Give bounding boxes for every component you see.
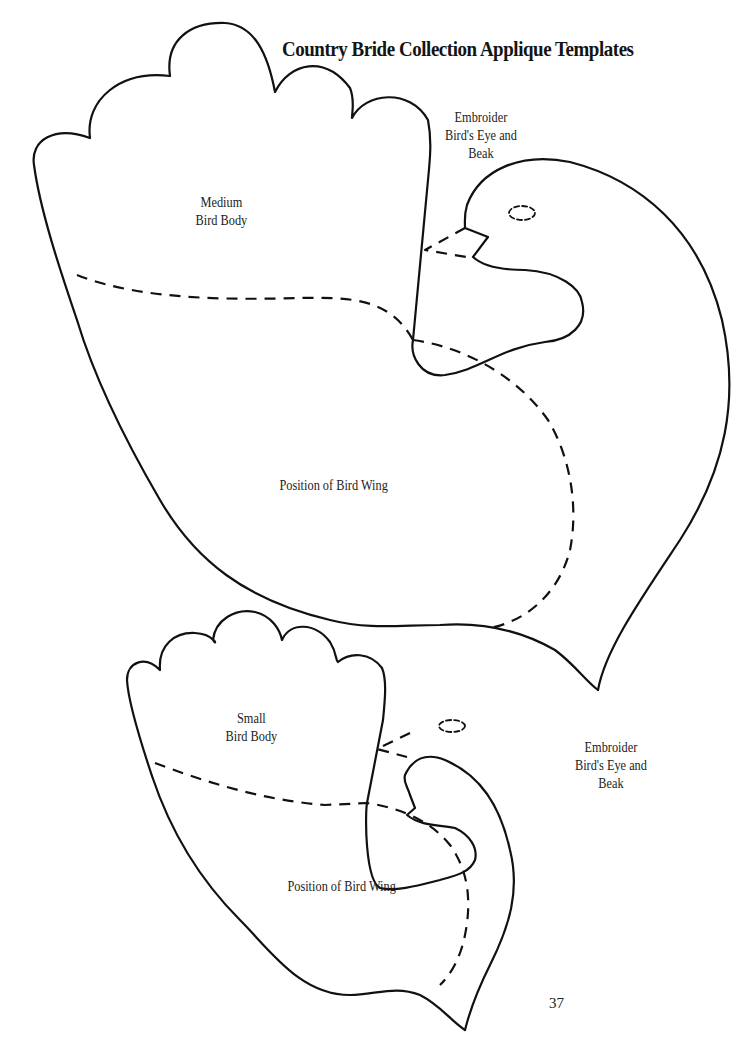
- small-bird-instruction-line3: Beak: [575, 775, 647, 793]
- medium-bird-body-label-line1: Medium: [196, 194, 248, 212]
- medium-bird-beak-dashed: [425, 228, 472, 258]
- medium-bird-wing-placement-line: [77, 275, 573, 628]
- medium-bird-head-outline: [412, 159, 729, 690]
- small-bird-body-label-line1: Small: [226, 710, 278, 728]
- medium-bird-instruction-label: Embroider Bird's Eye and Beak: [445, 109, 517, 163]
- page-number: 37: [549, 995, 564, 1012]
- medium-bird-body-outline: [34, 23, 431, 340]
- small-bird-instruction-label: Embroider Bird's Eye and Beak: [575, 739, 647, 793]
- small-bird-template: [127, 611, 514, 1030]
- small-bird-instruction-line2: Bird's Eye and: [575, 757, 647, 775]
- small-bird-lower-outline: [152, 776, 465, 1030]
- medium-bird-instruction-line2: Bird's Eye and: [445, 127, 517, 145]
- medium-bird-wing-label-text: Position of Bird Wing: [279, 477, 387, 495]
- small-bird-wing-label: Position of Bird Wing: [287, 878, 395, 896]
- small-bird-eye-icon: [439, 720, 465, 732]
- small-bird-body-label: Small Bird Body: [226, 710, 278, 746]
- small-bird-wing-label-text: Position of Bird Wing: [287, 878, 395, 896]
- medium-bird-eye-icon: [509, 206, 535, 220]
- small-bird-beak-dashed: [377, 733, 410, 757]
- medium-bird-wing-label: Position of Bird Wing: [279, 477, 387, 495]
- small-bird-body-outline: [127, 611, 385, 803]
- small-bird-body-label-line2: Bird Body: [226, 728, 278, 746]
- medium-bird-body-label: Medium Bird Body: [196, 194, 248, 230]
- medium-bird-lower-outline: [77, 320, 598, 690]
- medium-bird-template: [34, 23, 730, 690]
- medium-bird-instruction-line3: Beak: [445, 145, 517, 163]
- medium-bird-body-label-line2: Bird Body: [196, 212, 248, 230]
- medium-bird-instruction-line1: Embroider: [445, 109, 517, 127]
- small-bird-instruction-line1: Embroider: [575, 739, 647, 757]
